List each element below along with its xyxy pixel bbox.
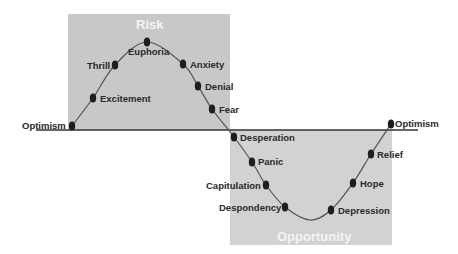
point-label-capitulation: Capitulation [206,181,261,191]
point-label-relief: Relief [377,150,403,160]
point-dot-relief [368,150,374,159]
point-label-fear: Fear [219,105,239,115]
point-label-depression: Depression [338,206,390,216]
market-cycle-diagram: OptimismExcitementThrillEuphoriaAnxietyD… [0,0,458,254]
point-dot-anxiety [180,60,186,69]
point-dot-thrill [112,61,118,70]
point-label-anxiety: Anxiety [190,60,224,70]
point-label-optimism: Optimism [22,121,66,131]
opportunity-zone-title: Opportunity [277,229,351,244]
point-label-desperation: Desperation [240,133,295,143]
point-label-optimism: Optimism [395,119,439,129]
point-label-excitement: Excitement [100,94,151,104]
point-dot-denial [195,82,201,91]
point-dot-optimism [388,120,394,129]
point-dot-fear [209,105,215,114]
point-label-thrill: Thrill [87,61,110,71]
risk-zone-title: Risk [136,17,163,32]
point-dot-optimism [69,122,75,131]
point-label-denial: Denial [205,82,234,92]
point-label-euphoria: Euphoria [128,47,169,57]
point-dot-excitement [90,94,96,103]
point-dot-despondency [282,203,288,212]
point-dot-panic [249,158,255,167]
point-dot-capitulation [263,181,269,190]
point-dot-desperation [231,133,237,142]
point-label-despondency: Despondency [219,203,281,213]
point-label-panic: Panic [258,157,283,167]
point-label-hope: Hope [360,179,384,189]
point-dot-hope [350,179,356,188]
point-dot-depression [328,206,334,215]
